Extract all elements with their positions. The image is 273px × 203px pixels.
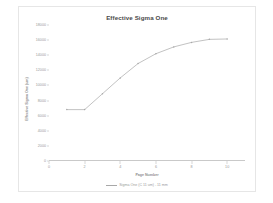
y-axis-tick-label: 10000 [36, 83, 46, 87]
plot-area: 0200040006000800010000120001400016000180… [49, 25, 245, 161]
series-data-point [102, 93, 104, 95]
y-axis-tick-mark [47, 40, 50, 41]
chart-title: Effective Sigma One [19, 14, 255, 21]
series-layer [49, 25, 245, 161]
y-axis-tick-mark [47, 55, 50, 56]
series-data-point [209, 39, 211, 41]
x-axis-tick-mark [227, 161, 228, 164]
y-axis-tick-mark [47, 70, 50, 71]
series-data-point [137, 63, 139, 65]
y-axis-tick-mark [47, 145, 50, 146]
y-axis-tick-mark [47, 85, 50, 86]
y-axis-tick-label: 6000 [38, 114, 46, 118]
x-axis-tick-mark [49, 161, 50, 164]
series-data-point [155, 53, 157, 55]
y-axis-tick-label: 2000 [38, 144, 46, 148]
legend-entry-label: Sigma One (C 11 um) - 11 mm [119, 183, 168, 187]
series-data-point [120, 77, 122, 79]
x-axis-tick-label: 6 [155, 165, 157, 169]
series-data-point [173, 46, 175, 48]
x-axis-tick-label: 0 [48, 165, 50, 169]
y-axis-tick-label: 14000 [36, 53, 46, 57]
chart-container: Effective Sigma One Effective Sigma One … [18, 6, 256, 192]
y-axis-tick-label: 16000 [36, 38, 46, 42]
series-data-point [84, 109, 86, 111]
x-axis-tick-mark [191, 161, 192, 164]
x-axis-tick-label: 8 [191, 165, 193, 169]
series-data-point [66, 109, 68, 111]
series-data-point [226, 38, 228, 40]
y-axis-tick-label: 12000 [36, 68, 46, 72]
y-axis-title: Effective Sigma One (um) [25, 77, 29, 121]
legend-swatch-icon [106, 185, 117, 186]
x-axis-title: Page Number [49, 173, 245, 177]
chart-legend: Sigma One (C 11 um) - 11 mm [19, 183, 255, 187]
x-axis-tick-mark [120, 161, 121, 164]
y-axis-tick-label: 4000 [38, 129, 46, 133]
series-data-point [191, 42, 193, 44]
x-axis-tick-label: 10 [225, 165, 229, 169]
y-axis-tick-label: 8000 [38, 99, 46, 103]
y-axis-tick-mark [47, 130, 50, 131]
y-axis-tick-label: 18000 [36, 23, 46, 27]
y-axis-tick-mark [47, 100, 50, 101]
x-axis-tick-label: 2 [84, 165, 86, 169]
y-axis-tick-mark [47, 115, 50, 116]
x-axis-tick-mark [84, 161, 85, 164]
x-axis-tick-mark [155, 161, 156, 164]
x-axis-tick-label: 4 [119, 165, 121, 169]
y-axis-tick-mark [47, 25, 50, 26]
series-line [67, 39, 227, 110]
